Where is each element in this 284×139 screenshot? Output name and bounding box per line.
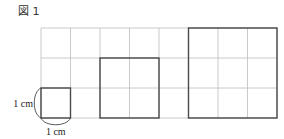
vertical-length-label: 1 cm: [13, 98, 33, 109]
figure-title: 図 1: [18, 5, 40, 18]
square-1cm: [41, 88, 71, 118]
figure-1: 図 1 1 cm 1 cm: [0, 0, 284, 139]
square-3cm: [189, 28, 278, 118]
vertical-brace: [34, 88, 41, 118]
horizontal-brace: [41, 118, 71, 125]
horizontal-length-label: 1 cm: [46, 126, 66, 137]
